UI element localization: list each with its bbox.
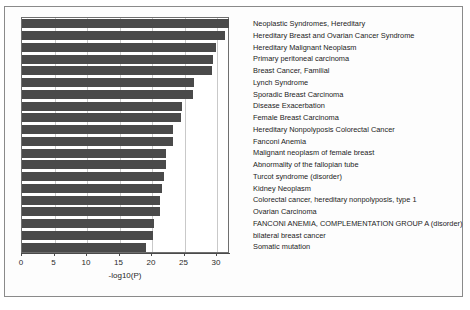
category-label: Colorectal cancer, hereditary nonpolypos… — [253, 194, 458, 206]
bar-row — [22, 100, 245, 112]
bar[interactable] — [22, 137, 173, 146]
bar-row — [22, 30, 245, 42]
category-label: Turcot syndrome (disorder) — [253, 171, 458, 183]
bar[interactable] — [22, 160, 166, 169]
category-label: FANCONI ANEMIA, COMPLEMENTATION GROUP A … — [253, 218, 458, 230]
figure-panel: 051015202530 -log10(P) Neoplastic Syndro… — [4, 6, 463, 297]
category-label: Malignant neoplasm of female breast — [253, 147, 458, 159]
x-tick-15 — [119, 253, 120, 256]
category-label: Abnormality of the fallopian tube — [253, 159, 458, 171]
bar-row — [22, 183, 245, 195]
x-tick-label-25: 25 — [179, 258, 188, 267]
category-label-list: Neoplastic Syndromes, HereditaryHeredita… — [253, 18, 458, 253]
category-label: Fanconi Anemia — [253, 136, 458, 148]
category-label: bilateral breast cancer — [253, 230, 458, 242]
bar-row — [22, 53, 245, 65]
x-tick-0 — [21, 253, 22, 256]
category-label: Hereditary Nonpolyposis Colorectal Cance… — [253, 124, 458, 136]
x-tick-20 — [151, 253, 152, 256]
bar[interactable] — [22, 55, 213, 64]
x-tick-10 — [86, 253, 87, 256]
bar[interactable] — [22, 31, 225, 40]
x-tick-label-10: 10 — [82, 258, 91, 267]
bar-row — [22, 194, 245, 206]
bar-row — [22, 230, 245, 242]
bar-row — [22, 147, 245, 159]
bar[interactable] — [22, 78, 194, 87]
x-axis: 051015202530 — [21, 253, 230, 254]
category-label: Somatic mutation — [253, 241, 458, 253]
category-label: Disease Exacerbation — [253, 100, 458, 112]
category-label: Ovarian Carcinoma — [253, 206, 458, 218]
bar-row — [22, 89, 245, 101]
bar-row — [22, 136, 245, 148]
category-label: Kidney Neoplasm — [253, 183, 458, 195]
category-label: Lynch Syndrome — [253, 77, 458, 89]
bar[interactable] — [22, 43, 216, 52]
x-tick-label-0: 0 — [19, 258, 23, 267]
bar-chart-plot-area — [21, 17, 245, 253]
x-tick-5 — [54, 253, 55, 256]
bar[interactable] — [22, 90, 193, 99]
category-label: Sporadic Breast Carcinoma — [253, 89, 458, 101]
category-label: Hereditary Malignant Neoplasm — [253, 42, 458, 54]
bar-series — [22, 18, 245, 252]
x-tick-25 — [184, 253, 185, 256]
x-tick-label-30: 30 — [212, 258, 221, 267]
x-axis-title: -log10(P) — [109, 271, 142, 280]
bar[interactable] — [22, 231, 153, 240]
bar[interactable] — [22, 113, 181, 122]
category-label: Breast Cancer, Familial — [253, 65, 458, 77]
bar-row — [22, 18, 245, 30]
bar-row — [22, 241, 245, 253]
bar-row — [22, 171, 245, 183]
bar-row — [22, 206, 245, 218]
bar[interactable] — [22, 219, 154, 228]
bar[interactable] — [22, 19, 229, 28]
x-tick-label-20: 20 — [147, 258, 156, 267]
category-label: Primary peritoneal carcinoma — [253, 53, 458, 65]
bar[interactable] — [22, 149, 166, 158]
bar[interactable] — [22, 243, 146, 252]
bar-row — [22, 65, 245, 77]
bar-row — [22, 218, 245, 230]
bar[interactable] — [22, 207, 160, 216]
bar-row — [22, 124, 245, 136]
x-tick-label-5: 5 — [51, 258, 55, 267]
bar[interactable] — [22, 184, 162, 193]
bar-row — [22, 77, 245, 89]
bar[interactable] — [22, 66, 212, 75]
bar[interactable] — [22, 196, 160, 205]
category-label: Female Breast Carcinoma — [253, 112, 458, 124]
bar-row — [22, 42, 245, 54]
bar-row — [22, 112, 245, 124]
bar[interactable] — [22, 125, 173, 134]
bar-row — [22, 159, 245, 171]
bar[interactable] — [22, 102, 182, 111]
category-label: Hereditary Breast and Ovarian Cancer Syn… — [253, 30, 458, 42]
category-label: Neoplastic Syndromes, Hereditary — [253, 18, 458, 30]
bar[interactable] — [22, 172, 164, 181]
x-tick-30 — [216, 253, 217, 256]
x-tick-label-15: 15 — [114, 258, 123, 267]
